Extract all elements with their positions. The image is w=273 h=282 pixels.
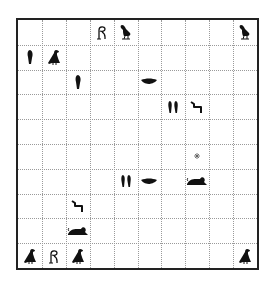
board-cell-mouth[interactable]: [138, 169, 162, 194]
quail-chick-icon: [238, 24, 252, 40]
board-cell-reed-leaf[interactable]: [66, 70, 90, 95]
step-icon: [190, 100, 204, 114]
board-cell-vulture[interactable]: [66, 243, 90, 268]
quail-chick-icon: [119, 24, 133, 40]
board-cell-double-reed[interactable]: [114, 169, 138, 194]
board-cell-mouth[interactable]: [138, 70, 162, 95]
vulture-icon: [70, 248, 86, 264]
board-cell-twisted-flax[interactable]: [42, 243, 66, 268]
twisted-flax-icon: [96, 24, 108, 40]
reed-leaf-icon: [74, 74, 82, 90]
board-cell-lion[interactable]: [185, 169, 209, 194]
lion-icon: [67, 226, 89, 236]
mouth-icon: [140, 178, 158, 185]
board-cell-vulture[interactable]: [18, 243, 42, 268]
double-reed-icon: [167, 100, 179, 114]
board-cell-vulture[interactable]: [42, 45, 66, 70]
board-cell-step[interactable]: [66, 194, 90, 219]
board-cell-vulture[interactable]: [233, 243, 257, 268]
grid-line-horizontal: [18, 144, 257, 145]
grid-line-horizontal: [18, 194, 257, 195]
grid-line-horizontal: [18, 94, 257, 95]
board-cell-twisted-flax[interactable]: [90, 20, 114, 45]
star-marker-icon: [194, 153, 200, 159]
vulture-icon: [22, 248, 38, 264]
game-board: [16, 18, 259, 270]
vulture-icon: [237, 248, 253, 264]
board-cell-star-marker[interactable]: [185, 144, 209, 169]
board-cell-quail-chick[interactable]: [233, 20, 257, 45]
board-cell-quail-chick[interactable]: [114, 20, 138, 45]
lion-icon: [186, 176, 208, 186]
mouth-icon: [140, 78, 158, 85]
grid-line-horizontal: [18, 218, 257, 219]
double-reed-icon: [120, 174, 132, 188]
board-cell-reed-leaf[interactable]: [18, 45, 42, 70]
grid-line-horizontal: [18, 119, 257, 120]
board-cell-step[interactable]: [185, 94, 209, 119]
board-cell-double-reed[interactable]: [161, 94, 185, 119]
reed-leaf-icon: [26, 49, 34, 65]
board-cell-lion[interactable]: [66, 218, 90, 243]
twisted-flax-icon: [48, 248, 60, 264]
vulture-icon: [46, 49, 62, 65]
step-icon: [71, 199, 85, 213]
